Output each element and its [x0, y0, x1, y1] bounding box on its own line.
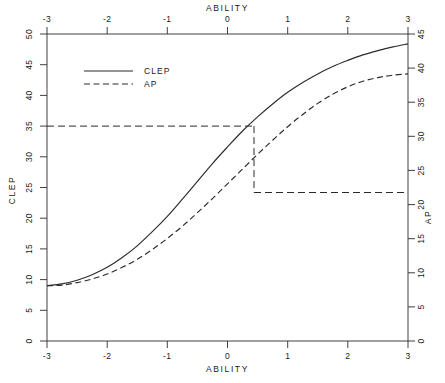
plot-frame: [47, 34, 408, 341]
equipercentile-equating-chart: -3 -2 -1 0 1 2 3 ABILITY -3 -2 -1 0 1 2 …: [0, 0, 445, 383]
y2-tick-label: 20: [416, 199, 426, 209]
series-line-clep: [47, 44, 408, 286]
top-axis-title: ABILITY: [206, 3, 249, 13]
y-tick-label: 50: [24, 29, 34, 39]
left-axis-tick-labels: 0 5 10 15 20 25 30 35 40 45 50: [24, 29, 34, 344]
y-tick-label: 30: [24, 152, 34, 162]
y-tick-label: 35: [24, 121, 34, 131]
chart-legend: CLEP AP: [84, 66, 171, 89]
top-tick-label: 2: [345, 14, 350, 24]
top-tick-label: -1: [163, 14, 171, 24]
right-axis-title: AP: [423, 210, 433, 225]
y-tick-label: 5: [24, 308, 34, 313]
x-tick-label: 3: [405, 351, 410, 361]
data-curves: [47, 44, 408, 286]
y2-tick-label: 30: [416, 131, 426, 141]
left-axis-title: CLEP: [7, 176, 17, 205]
x-tick-label: -3: [43, 351, 51, 361]
chart-figure: -3 -2 -1 0 1 2 3 ABILITY -3 -2 -1 0 1 2 …: [0, 0, 445, 383]
y2-tick-label: 15: [416, 234, 426, 244]
y-tick-label: 20: [24, 213, 34, 223]
y2-tick-label: 40: [416, 63, 426, 73]
top-tick-label: 3: [405, 14, 410, 24]
x-tick-label: 2: [345, 351, 350, 361]
bottom-axis-tick-labels: -3 -2 -1 0 1 2 3: [43, 351, 411, 361]
y-tick-label: 25: [24, 182, 34, 192]
right-axis-tick-labels: 0 5 10 15 20 25 30 35 40 45: [416, 29, 426, 344]
x-tick-label: 1: [285, 351, 290, 361]
equating-reference-lines: [47, 126, 408, 192]
legend-label-clep: CLEP: [144, 66, 171, 76]
x-tick-label: -1: [163, 351, 171, 361]
top-tick-label: -3: [43, 14, 51, 24]
y2-tick-label: 10: [416, 268, 426, 278]
y-tick-label: 45: [24, 60, 34, 70]
x-tick-label: 0: [225, 351, 230, 361]
y-tick-label: 40: [24, 90, 34, 100]
top-axis-tick-labels: -3 -2 -1 0 1 2 3: [43, 14, 411, 24]
right-axis-ticks: [408, 34, 415, 341]
legend-label-ap: AP: [144, 79, 158, 89]
bottom-axis-ticks: [47, 341, 408, 348]
y2-tick-label: 45: [416, 29, 426, 39]
y2-tick-label: 5: [416, 304, 426, 309]
bottom-axis-title: ABILITY: [206, 364, 249, 374]
y2-tick-label: 25: [416, 165, 426, 175]
top-tick-label: 0: [225, 14, 230, 24]
top-tick-label: -2: [103, 14, 111, 24]
y2-tick-label: 35: [416, 97, 426, 107]
y2-tick-label: 0: [416, 338, 426, 343]
x-tick-label: -2: [103, 351, 111, 361]
y-tick-label: 15: [24, 244, 34, 254]
series-line-ap: [47, 74, 408, 286]
y-tick-label: 0: [24, 338, 34, 343]
top-tick-label: 1: [285, 14, 290, 24]
left-axis-ticks: [40, 34, 47, 341]
y-tick-label: 10: [24, 274, 34, 284]
top-axis-ticks: [47, 27, 408, 34]
